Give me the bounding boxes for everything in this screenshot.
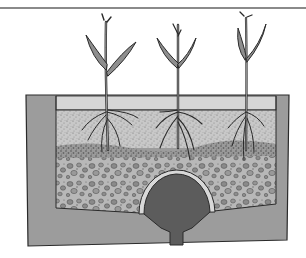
water-surface-band — [56, 96, 276, 110]
drainage-cross-section-illustration — [0, 0, 306, 258]
